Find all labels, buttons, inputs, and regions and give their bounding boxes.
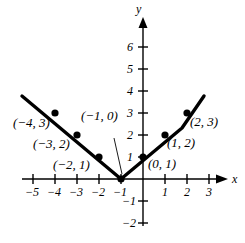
x-tick-label-minus-3: −3 xyxy=(69,185,83,200)
point-label-minus3-2: (−3, 2) xyxy=(33,136,70,152)
x-axis-label: x xyxy=(232,172,237,187)
y-tick-label-3: 3 xyxy=(127,106,133,121)
marker-m1-0 xyxy=(117,175,124,182)
point-label-minus2-1: (−2, 1) xyxy=(53,157,90,173)
x-tick-label-minus-5: −5 xyxy=(25,185,39,200)
y-tick-label-1: 1 xyxy=(127,150,133,165)
x-tick-label-minus-2: −2 xyxy=(91,185,105,200)
point-label-minus1-0: (−1, 0) xyxy=(81,108,118,124)
x-tick-label-3: 3 xyxy=(206,185,212,200)
marker-m4-3 xyxy=(51,109,58,116)
point-label-2-3: (2, 3) xyxy=(190,114,218,130)
point-label-minus4-3: (−4, 3) xyxy=(13,115,50,131)
x-tick-label-minus-4: −4 xyxy=(47,185,61,200)
point-label-0-1: (0, 1) xyxy=(148,156,176,172)
x-tick-label-1: 1 xyxy=(162,185,168,200)
marker-0-1 xyxy=(139,153,146,160)
x-tick-label-2: 2 xyxy=(184,185,190,200)
y-tick-label-5: 5 xyxy=(127,62,133,77)
y-axis-label: y xyxy=(136,2,141,17)
marker-m2-1 xyxy=(95,153,102,160)
y-tick-label-2: 2 xyxy=(127,128,133,143)
graph-figure: y x −5 −4 −3 −2 −1 1 2 3 6 5 4 3 2 1 −1 … xyxy=(0,0,245,243)
marker-m3-2 xyxy=(73,131,80,138)
y-tick-label-6: 6 xyxy=(127,40,133,55)
leader-line-vertex xyxy=(114,138,122,174)
y-tick-label-minus-2: −2 xyxy=(122,216,136,231)
y-tick-label-minus-1: −1 xyxy=(122,194,136,209)
y-tick-label-4: 4 xyxy=(127,84,133,99)
point-label-1-2: (1, 2) xyxy=(167,135,195,151)
y-axis xyxy=(139,17,148,226)
